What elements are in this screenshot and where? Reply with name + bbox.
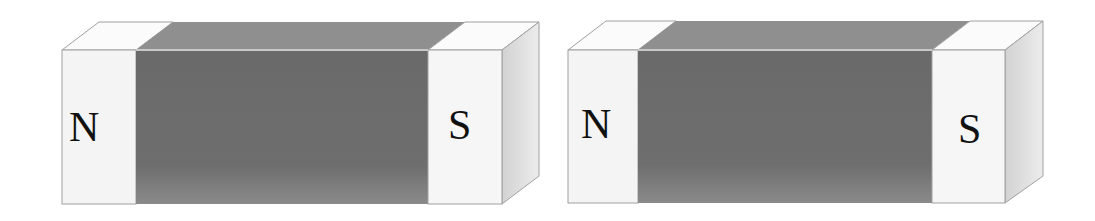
magnet-1-top-center [136, 22, 465, 50]
magnet-1-south-label: S [448, 104, 471, 146]
magnet-2-top-center [638, 21, 970, 50]
magnet-1-center-band [136, 50, 428, 204]
magnet-1-north-label: N [69, 106, 99, 148]
magnet-2-side-face [1005, 21, 1043, 203]
bar-magnet-1 [0, 0, 1095, 221]
magnet-2-south-label: S [958, 108, 981, 150]
magnet-2-north-label: N [581, 103, 611, 145]
magnet-1-side-face [502, 22, 539, 204]
magnet-2-center-band [638, 50, 932, 203]
